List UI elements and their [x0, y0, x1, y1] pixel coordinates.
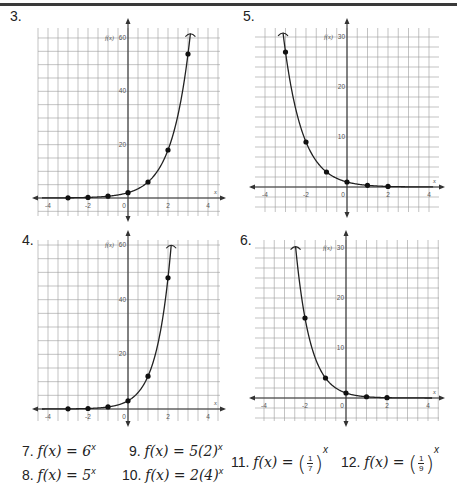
x-tick-label: 4 [206, 202, 210, 209]
x-axis-label: x [213, 399, 217, 406]
data-point [324, 169, 329, 174]
x-tick-label: -4 [45, 202, 51, 209]
equation-9: 9. f(x) = 5(2)x [129, 442, 222, 459]
y-axis-arrow-up-icon [345, 18, 350, 24]
x-tick-label: -4 [45, 413, 51, 420]
equation-expression: f(x) = [253, 454, 293, 470]
fraction-numerator: 1 [418, 454, 424, 464]
y-axis-arrow-up-icon [126, 230, 131, 236]
y-tick-label: 20 [119, 141, 127, 148]
equation-exponent: x [219, 466, 224, 476]
x-axis-arrow-left-icon [32, 407, 38, 412]
equation-exponent: x [91, 442, 96, 452]
y-tick-label: 20 [338, 83, 346, 90]
y-tick-label: 20 [119, 350, 127, 357]
y-axis-label: f(x) [105, 241, 114, 249]
left-paren: ( [408, 451, 417, 476]
left-paren: ( [297, 451, 306, 476]
data-point [344, 179, 349, 184]
x-tick-label: 4 [426, 402, 430, 409]
fraction-denominator: 7 [307, 464, 313, 473]
data-point [343, 390, 348, 395]
x-axis-arrow-left-icon [249, 185, 255, 190]
x-axis-label: x [432, 177, 436, 184]
equation-exponent: x [434, 444, 439, 455]
y-axis-arrow-down-icon [126, 216, 131, 222]
grid [38, 28, 220, 216]
equation-expression: f(x) = 2(4) [145, 467, 218, 483]
y-tick-label: 20 [337, 294, 345, 301]
x-tick-label: 2 [385, 402, 389, 409]
x-axis-label: x [432, 388, 436, 395]
data-point [65, 195, 70, 200]
x-tick-label: -4 [261, 402, 267, 409]
x-tick-label: -2 [85, 413, 91, 420]
grid [38, 240, 220, 421]
x-tick-label: 0 [122, 413, 126, 420]
equation-expression: f(x) = 5 [38, 467, 92, 483]
function-curve [283, 33, 433, 187]
equation-number: 11. [231, 454, 249, 470]
y-axis-arrow-down-icon [345, 212, 350, 218]
equation-number: 12. [341, 454, 360, 470]
x-axis-label: x [213, 188, 217, 195]
equation-expression: f(x) = 5(2) [145, 443, 218, 459]
y-tick-label: 10 [338, 133, 346, 140]
data-point [125, 398, 130, 403]
data-point [185, 51, 190, 56]
graph-6-exponential-decay: -4-2024102030xf(x) [249, 230, 445, 427]
x-tick-label: -4 [262, 191, 268, 198]
x-tick-label: 4 [427, 191, 431, 198]
equation-exponent: x [323, 444, 328, 455]
data-point [365, 183, 370, 188]
equation-number: 9. [129, 443, 141, 459]
data-point [105, 194, 110, 199]
x-axis-arrow-right-icon [220, 196, 226, 201]
graph-4-exponential-growth: -4-2024204060xf(x) [32, 230, 226, 427]
x-tick-label: -2 [85, 202, 91, 209]
x-tick-label: 2 [166, 202, 170, 209]
y-tick-label: 40 [119, 87, 127, 94]
equation-7: 7. f(x) = 6x [22, 442, 96, 459]
y-tick-label: 40 [119, 296, 127, 303]
equation-12: 12. f(x) = (19)x [341, 444, 439, 476]
data-point [303, 139, 308, 144]
data-point [364, 394, 369, 399]
y-axis-arrow-up-icon [126, 18, 131, 24]
fraction: 17 [307, 454, 313, 473]
data-point [145, 374, 150, 379]
equation-8: 8. f(x) = 5x [22, 466, 96, 483]
equation-expression: f(x) = [364, 454, 404, 470]
x-axis-arrow-right-icon [220, 407, 226, 412]
x-axis-arrow-left-icon [32, 196, 38, 201]
y-tick-label: 60 [119, 34, 127, 41]
data-point [323, 375, 328, 380]
data-point [85, 195, 90, 200]
x-axis-arrow-right-icon [439, 185, 445, 190]
equation-11: 11. f(x) = (17)x [231, 444, 328, 476]
y-axis-arrow-down-icon [126, 421, 131, 427]
y-axis-arrow-down-icon [344, 421, 349, 427]
fraction: 19 [418, 454, 424, 473]
graph-5-exponential-decay: -4-2024102030xf(x) [249, 18, 445, 218]
equation-number: 7. [22, 443, 34, 459]
equation-number: 8. [22, 467, 34, 483]
x-axis-arrow-right-icon [439, 396, 445, 401]
equation-number: 10. [122, 467, 141, 483]
x-tick-label: 2 [166, 413, 170, 420]
y-tick-label: 60 [119, 241, 127, 248]
y-axis-label: f(x) [323, 244, 332, 252]
function-curve [296, 247, 433, 398]
fraction-numerator: 1 [307, 454, 313, 464]
y-axis-label: f(x) [105, 34, 114, 42]
x-tick-label: 0 [340, 402, 344, 409]
equation-expression: f(x) = 6 [38, 443, 92, 459]
x-tick-label: 0 [341, 191, 345, 198]
data-point [283, 49, 288, 54]
data-point [165, 147, 170, 152]
equation-exponent: x [91, 466, 96, 476]
data-point [385, 184, 390, 189]
x-tick-label: 4 [206, 413, 210, 420]
graphs-canvas: -4-2024204060xf(x) -4-2024102030xf(x) -4… [0, 0, 457, 489]
y-axis-arrow-up-icon [344, 230, 349, 236]
